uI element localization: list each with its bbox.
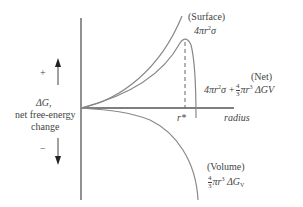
minus-sign: − bbox=[40, 143, 46, 154]
volume-formula-fraction: 43 bbox=[208, 175, 212, 190]
plus-sign: + bbox=[40, 67, 46, 78]
volume-frac-den: 3 bbox=[208, 183, 212, 190]
surface-curve-name: (Surface) bbox=[188, 11, 225, 22]
net-formula-exp2: 3 bbox=[250, 84, 253, 90]
volume-formula-exp: 3 bbox=[221, 176, 224, 182]
surface-formula: 4πr2σ bbox=[194, 23, 216, 36]
y-axis-label-line1: net free-energy bbox=[15, 109, 76, 120]
surface-formula-prefix: 4πr bbox=[194, 25, 208, 36]
volume-formula-sub: V bbox=[240, 182, 244, 188]
y-axis-label-line2: change bbox=[31, 121, 59, 132]
net-formula: 4πr2σ +43πr3 ΔGV bbox=[204, 82, 274, 98]
down-arrow-icon bbox=[55, 156, 61, 165]
volume-curve-name: (Volume) bbox=[207, 161, 245, 172]
net-formula-fraction: 43 bbox=[236, 83, 240, 98]
x-axis-label: radius bbox=[224, 112, 250, 123]
delta-g-symbol: ΔG, bbox=[36, 97, 52, 108]
net-curve-name: (Net) bbox=[251, 71, 272, 82]
net-formula-part4: ΔGV bbox=[255, 84, 274, 95]
volume-formula: 43πr3 ΔGV bbox=[207, 174, 244, 191]
net-formula-part2: σ + bbox=[221, 84, 235, 95]
volume-formula-part2: ΔG bbox=[227, 176, 240, 187]
up-arrow-icon bbox=[55, 58, 61, 67]
net-formula-part3: πr bbox=[241, 84, 250, 95]
net-frac-den: 3 bbox=[236, 91, 240, 98]
surface-formula-suffix: σ bbox=[211, 25, 216, 36]
net-formula-part1: 4πr bbox=[204, 84, 218, 95]
critical-radius-label: r* bbox=[177, 112, 186, 123]
